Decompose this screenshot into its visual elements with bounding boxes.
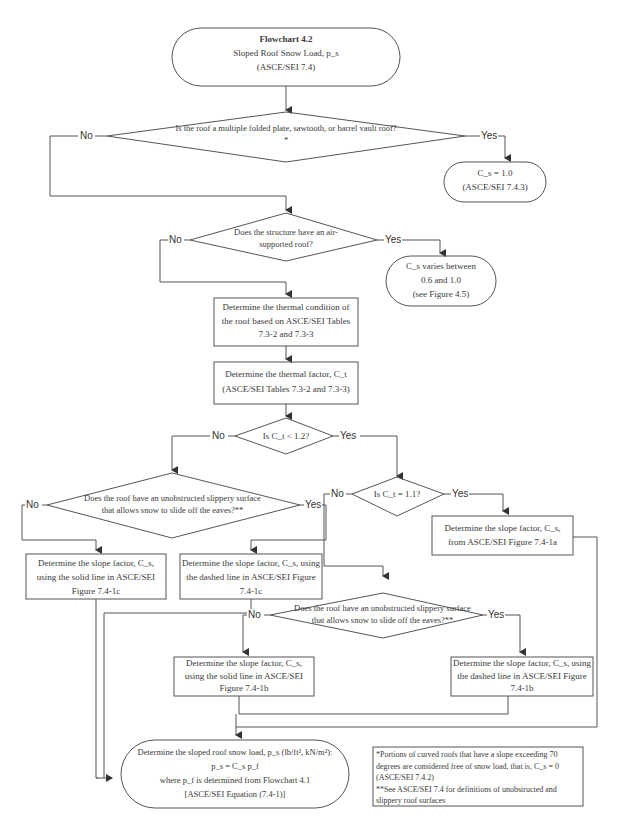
cs-varies-terminal-text: C_s varies between 0.6 and 1.0 (see Figu… [386, 259, 496, 301]
slope-solid-1c-text: Determine the slope factor, C_s, using t… [28, 556, 164, 598]
final-equation: p_s = C_s p_f [121, 759, 349, 773]
slope-dashed-1c-text: Determine the slope factor, C_s, using t… [182, 556, 320, 598]
flowchart-subtitle: Sloped Roof Snow Load, p_s [172, 46, 400, 60]
footnote-star: *Portions of curved roofs that have a sl… [376, 749, 581, 784]
final-terminal-text: Determine the sloped roof snow load, p_s… [121, 745, 349, 801]
yes-label: Yes [487, 609, 505, 621]
question-ct-eq-11: Is C_t = 1.1? [364, 487, 430, 501]
question-slippery-1b: Does the roof have an unobstructed slipp… [290, 602, 475, 626]
final-line3: where p_f is determined from Flowchart 4… [121, 773, 349, 787]
thermal-factor-line1: Determine the thermal factor, C_t [214, 367, 358, 382]
flowchart-title-block: Flowchart 4.2 Sloped Roof Snow Load, p_s… [172, 32, 400, 74]
cs-varies-line3: (see Figure 4.5) [386, 287, 496, 301]
yes-label: Yes [339, 430, 357, 442]
question-air-supported: Does the structure have an air-supported… [225, 226, 347, 250]
final-reference: [ASCE/SEI Equation (7.4-1)] [121, 787, 349, 801]
slope-1a-text: Determine the slope factor, C_s, from AS… [440, 521, 565, 549]
cs-1-terminal-text: C_s = 1.0 (ASCE/SEI 7.4.3) [444, 166, 546, 194]
question-slippery-1c: Does the roof have an unobstructed slipp… [80, 492, 265, 516]
question-ct-lt-12: Is C_t < 1.2? [250, 429, 322, 443]
slope-solid-1b-text: Determine the slope factor, C_s, using t… [176, 657, 312, 695]
cs-1-value: C_s = 1.0 [444, 166, 546, 180]
flowchart-reference: (ASCE/SEI 7.4) [172, 60, 400, 74]
footnote-double-star: **See ASCE/SEI 7.4 for definitions of un… [376, 784, 581, 807]
flowchart-title: Flowchart 4.2 [172, 32, 400, 46]
question-folded-plate: Is the roof a multiple folded plate, saw… [175, 122, 397, 146]
no-label: No [25, 499, 40, 511]
no-label: No [247, 609, 262, 621]
cs-varies-line2: 0.6 and 1.0 [386, 273, 496, 287]
thermal-condition-text: Determine the thermal condition of the r… [216, 301, 356, 342]
yes-label: Yes [384, 234, 402, 246]
cs-varies-line1: C_s varies between [386, 259, 496, 273]
cs-1-reference: (ASCE/SEI 7.4.3) [444, 180, 546, 194]
no-label: No [211, 430, 226, 442]
no-label: No [168, 234, 183, 246]
yes-label: Yes [451, 488, 469, 500]
slope-dashed-1b-text: Determine the slope factor, C_s, using t… [453, 657, 591, 695]
yes-label: Yes [304, 499, 322, 511]
yes-label: Yes [480, 130, 498, 142]
no-label: No [330, 488, 345, 500]
thermal-factor-text: Determine the thermal factor, C_t (ASCE/… [214, 367, 358, 397]
thermal-factor-line2: (ASCE/SEI Tables 7.3-2 and 7.3-3) [214, 382, 358, 397]
footnotes: *Portions of curved roofs that have a sl… [376, 749, 581, 807]
no-label: No [79, 130, 94, 142]
final-line1: Determine the sloped roof snow load, p_s… [121, 745, 349, 759]
